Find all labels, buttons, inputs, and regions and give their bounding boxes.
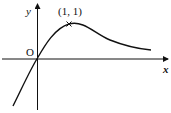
function-graph: y x O (1, 1) — [0, 0, 171, 113]
max-point-label: (1, 1) — [58, 6, 82, 17]
y-axis-label: y — [26, 6, 31, 17]
x-axis-label: x — [163, 64, 169, 75]
origin-label: O — [26, 47, 34, 58]
function-curve — [13, 23, 151, 106]
